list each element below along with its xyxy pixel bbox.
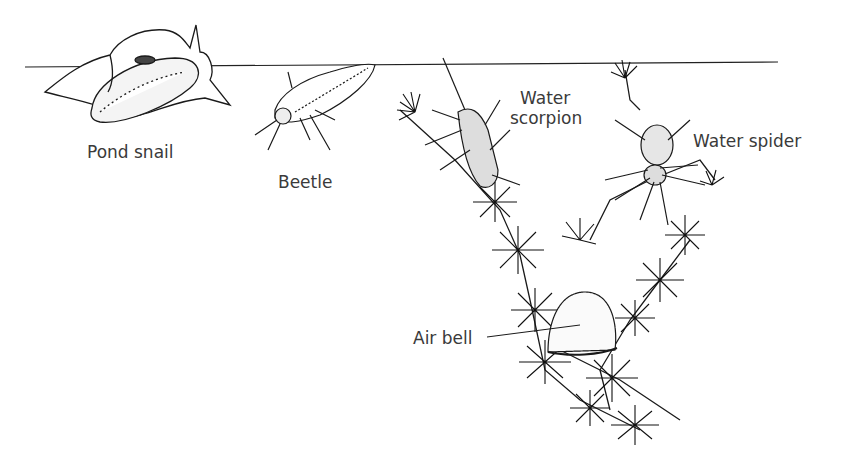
label-beetle: Beetle [278, 172, 332, 192]
water-spider-illustration [605, 120, 705, 225]
pond-life-diagram: Pond snail Beetle Water scorpion Water s… [0, 0, 843, 462]
air-bell-illustration [487, 292, 617, 355]
pond-snail-illustration [45, 25, 230, 122]
label-water-scorpion-line1: Water [520, 88, 570, 108]
label-water-scorpion-line2: scorpion [510, 108, 582, 128]
label-pond-snail: Pond snail [87, 142, 174, 162]
label-water-spider: Water spider [693, 131, 801, 151]
beetle-illustration [255, 64, 375, 150]
label-air-bell: Air bell [413, 328, 472, 348]
illustration [0, 0, 843, 462]
water-scorpion-illustration [425, 58, 520, 187]
